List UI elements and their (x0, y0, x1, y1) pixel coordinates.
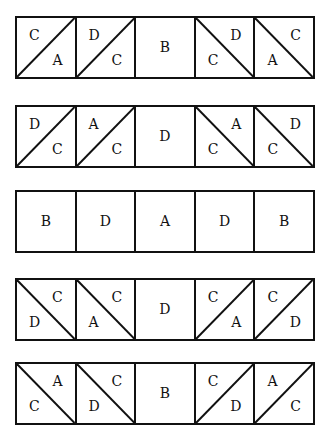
cell-label: C (290, 399, 301, 413)
cell-label: A (267, 53, 277, 67)
cell-label: C (208, 142, 219, 156)
diagonal-line-icon (255, 280, 313, 339)
cell-label: D (100, 213, 111, 227)
cell-label: D (230, 399, 241, 413)
cell-label: C (208, 290, 219, 304)
cell-label: A (89, 117, 99, 131)
half-square-triangle-cell: DC (255, 107, 313, 166)
cell-label: D (290, 117, 301, 131)
diagonal-line-icon (77, 280, 135, 339)
cell-label: C (52, 142, 63, 156)
half-square-triangle-cell: AC (17, 364, 77, 423)
cell-label: A (231, 117, 241, 131)
cell-label: B (160, 385, 170, 399)
cell-label: B (41, 213, 51, 227)
block-row: CDCADCACD (15, 278, 315, 341)
diagonal-line-icon (77, 18, 135, 77)
half-square-triangle-cell: CA (17, 18, 77, 77)
half-square-triangle-cell: DC (17, 107, 77, 166)
cell-label: D (159, 128, 170, 142)
block-row: BDADB (15, 190, 315, 253)
half-square-triangle-cell: CD (17, 280, 77, 339)
diagonal-line-icon (77, 364, 135, 423)
cell-label: D (159, 301, 170, 315)
square-cell: A (136, 192, 196, 251)
cell-label: D (219, 213, 230, 227)
cell-label: D (89, 28, 100, 42)
square-cell: B (17, 192, 77, 251)
diagonal-line-icon (17, 280, 75, 339)
cell-label: C (111, 142, 122, 156)
block-row: CADCBDCCA (15, 16, 315, 79)
square-cell: D (196, 192, 256, 251)
diagonal-line-icon (196, 364, 254, 423)
block-row: DCACDACDC (15, 105, 315, 168)
cell-label: C (208, 53, 219, 67)
diagonal-line-icon (77, 107, 135, 166)
diagonal-line-icon (196, 107, 254, 166)
square-cell: B (136, 18, 196, 77)
cell-label: A (160, 213, 170, 227)
square-cell: B (136, 364, 196, 423)
cell-label: A (231, 315, 241, 329)
half-square-triangle-cell: DC (196, 18, 256, 77)
cell-label: C (111, 53, 122, 67)
cell-label: D (29, 315, 40, 329)
half-square-triangle-cell: CA (255, 18, 313, 77)
cell-label: D (290, 315, 301, 329)
cell-label: D (230, 28, 241, 42)
diagonal-line-icon (196, 18, 254, 77)
cell-label: C (267, 142, 278, 156)
cell-label: D (89, 399, 100, 413)
cell-label: A (89, 315, 99, 329)
square-cell: B (255, 192, 313, 251)
cell-label: C (290, 28, 301, 42)
half-square-triangle-cell: CD (255, 280, 313, 339)
cell-label: A (52, 53, 62, 67)
cell-label: C (52, 290, 63, 304)
diagonal-line-icon (255, 107, 313, 166)
half-square-triangle-cell: CA (196, 280, 256, 339)
cell-label: B (160, 39, 170, 53)
cell-label: C (208, 374, 219, 388)
half-square-triangle-cell: AC (255, 364, 313, 423)
cell-label: A (52, 374, 62, 388)
cell-label: C (267, 290, 278, 304)
cell-label: D (29, 117, 40, 131)
diagonal-line-icon (17, 18, 75, 77)
block-row: ACCDBCDAC (15, 362, 315, 425)
cell-label: A (267, 374, 277, 388)
half-square-triangle-cell: CA (77, 280, 137, 339)
square-cell: D (136, 107, 196, 166)
half-square-triangle-cell: AC (77, 107, 137, 166)
diagonal-line-icon (255, 18, 313, 77)
half-square-triangle-cell: AC (196, 107, 256, 166)
half-square-triangle-cell: CD (196, 364, 256, 423)
square-cell: D (77, 192, 137, 251)
cell-label: C (29, 399, 40, 413)
cell-label: C (111, 290, 122, 304)
diagonal-line-icon (17, 364, 75, 423)
cell-label: B (279, 213, 289, 227)
diagonal-line-icon (17, 107, 75, 166)
square-cell: D (136, 280, 196, 339)
cell-label: C (29, 28, 40, 42)
half-square-triangle-cell: DC (77, 18, 137, 77)
diagonal-line-icon (255, 364, 313, 423)
diagonal-line-icon (196, 280, 254, 339)
half-square-triangle-cell: CD (77, 364, 137, 423)
cell-label: C (111, 374, 122, 388)
